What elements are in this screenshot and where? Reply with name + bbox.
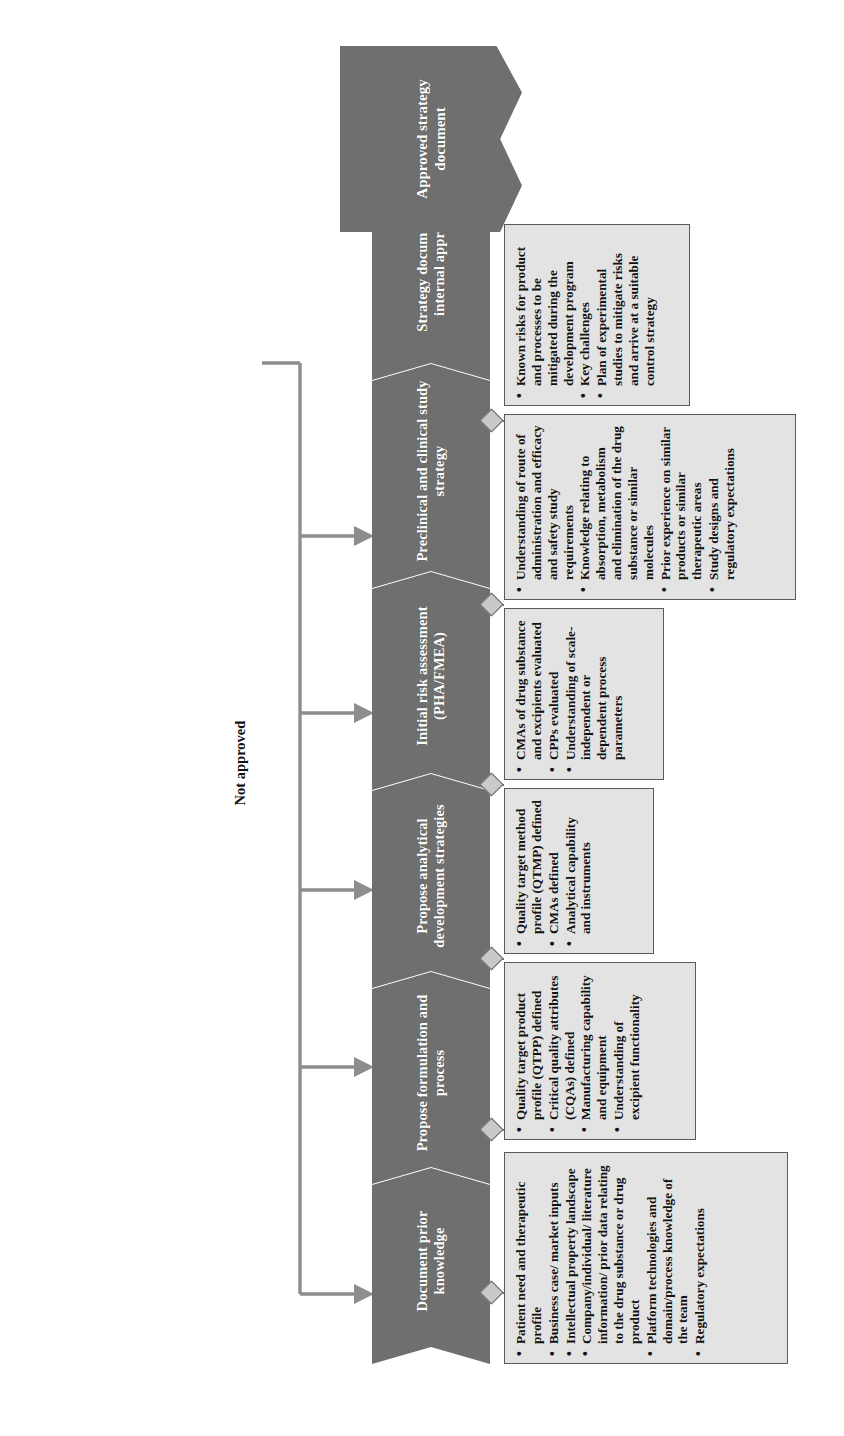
bullet-item: Company/individual/ literature informati… [579, 1162, 642, 1344]
bullet-list: Patient need and therapeutic profile Bus… [513, 1162, 708, 1359]
bullet-item: Prior experience on similar products or … [658, 424, 706, 580]
bullet-list: Understanding of route of administration… [513, 424, 738, 595]
bullet-item: Knowledge relating to absorption, metabo… [577, 424, 656, 580]
bullet-item: Known risks for product and processes to… [513, 234, 576, 386]
stage-label: Document prior knowledge [414, 1184, 448, 1338]
stage-document-prior-knowledge[interactable]: Document prior knowledge [372, 1168, 490, 1364]
detail-box-document-prior-knowledge: Patient need and therapeutic profile Bus… [504, 1152, 788, 1364]
stage-propose-formulation-and-process[interactable]: Propose formulation and process [372, 972, 490, 1184]
bullet-item: Understanding of excipient functionality [611, 972, 643, 1120]
diagram-canvas: Not approved Document prior knowledge Pr… [0, 0, 844, 1436]
stage-initial-risk-assessment[interactable]: Initial risk assessment (PHA/FMEA) [372, 572, 490, 790]
stage-chain: Document prior knowledge Propose formula… [372, 152, 490, 1364]
bullet-item: Manufacturing capability and equipment [578, 972, 610, 1120]
bullet-item: Key challenges [577, 234, 593, 386]
bullet-item: Intellectual property landscape [563, 1162, 579, 1344]
bullet-item: CMAs of drug substance and excipients ev… [513, 618, 545, 760]
approved-strategy-document-label: Approved strategy document [413, 60, 449, 218]
bullet-item: Critical quality attributes (CQAs) defin… [546, 972, 578, 1120]
stage-label: Propose analytical development strategie… [414, 790, 448, 962]
bullet-item: Plan of experimental studies to mitigate… [594, 234, 657, 386]
bullet-list: Quality target method profile (QTMP) def… [513, 798, 594, 949]
bullet-list: CMAs of drug substance and excipients ev… [513, 618, 626, 775]
bullet-item: Regulatory expectations [692, 1162, 708, 1344]
detail-box-propose-formulation-and-process: Quality target product profile (QTPP) de… [504, 962, 696, 1140]
bullet-item: Quality target product profile (QTPP) de… [513, 972, 545, 1120]
detail-box-preclinical-and-clinical-study-strategy: Understanding of route of administration… [504, 414, 796, 600]
approved-strategy-document[interactable]: Approved strategy document [340, 46, 522, 232]
bullet-item: CMAs defined [546, 798, 562, 934]
bullet-item: Understanding of route of administration… [513, 424, 576, 580]
stage-label: Propose formulation and process [414, 988, 448, 1158]
bullet-item: Patient need and therapeutic profile [513, 1162, 545, 1344]
stage-label: Initial risk assessment (PHA/FMEA) [414, 588, 448, 764]
bullet-item: CPPs evaluated [546, 618, 562, 760]
bullet-list: Known risks for product and processes to… [513, 234, 658, 401]
bullet-list: Quality target product profile (QTPP) de… [513, 972, 643, 1135]
detail-box-initial-risk-assessment: CMAs of drug substance and excipients ev… [504, 608, 664, 780]
bullet-item: Business case/ market inputs [546, 1162, 562, 1344]
stage-preclinical-and-clinical-study-strategy[interactable]: Preclinical and clinical study strategy [372, 364, 490, 588]
stage-propose-analytical-development-strategies[interactable]: Propose analytical development strategie… [372, 774, 490, 988]
bullet-item: Analytical capability and instruments [563, 798, 595, 934]
stage-label: Preclinical and clinical study strategy [414, 380, 448, 562]
bullet-item: Study designs and regulatory expectation… [706, 424, 738, 580]
detail-box-strategy-document-for-internal-approval: Known risks for product and processes to… [504, 224, 690, 406]
detail-box-propose-analytical-development-strategies: Quality target method profile (QTMP) def… [504, 788, 654, 954]
bullet-item: Understanding of scale-independent or de… [563, 618, 626, 760]
feedback-label: Not approved [232, 708, 249, 818]
bullet-item: Quality target method profile (QTMP) def… [513, 798, 545, 934]
bullet-item: Platform technologies and domain/process… [644, 1162, 692, 1344]
